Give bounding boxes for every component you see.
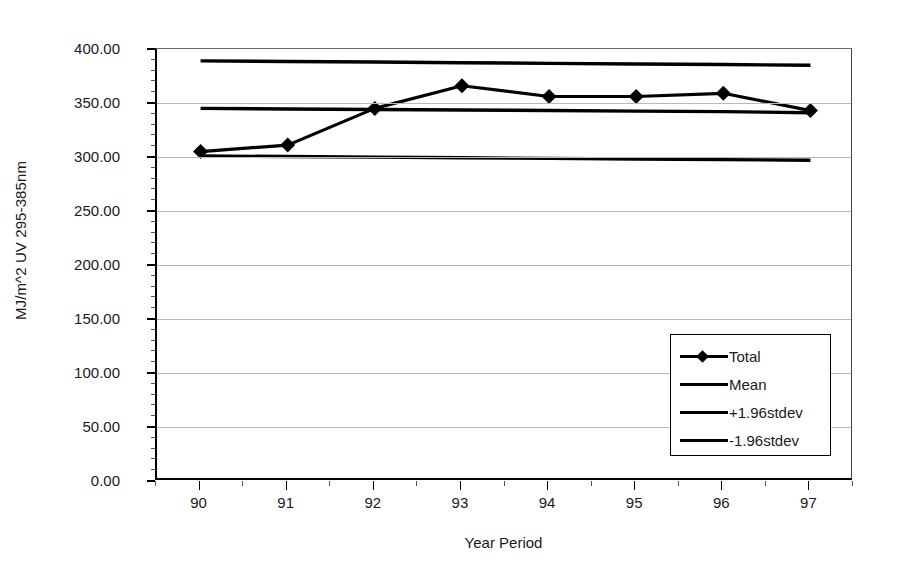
y-axis-tick-label: 250.00 (46, 202, 120, 219)
legend-item-plus-stdev: +1.96stdev (671, 398, 830, 426)
y-axis-minor-tick (151, 469, 155, 470)
gridline (157, 157, 851, 158)
gridline (157, 265, 851, 266)
y-axis-title: MJ/m^2 UV 295-385nm (0, 0, 40, 480)
x-axis-tick-label: 95 (614, 494, 654, 511)
data-point-marker (803, 103, 818, 118)
x-axis-tick-mark (199, 481, 200, 490)
x-axis-tick-label: 96 (701, 494, 741, 511)
legend-label-plus-stdev: +1.96stdev (729, 404, 803, 421)
x-axis-title-text: Year Period (465, 534, 543, 551)
x-axis-tick-label: 91 (266, 494, 306, 511)
y-axis-tick-mark (147, 318, 155, 320)
x-axis-minor-tick (155, 481, 156, 486)
y-axis-tick-mark (147, 156, 155, 158)
x-axis-minor-tick (329, 481, 330, 486)
legend-item-minus-stdev: -1.96stdev (671, 426, 830, 454)
x-axis-minor-tick (678, 481, 679, 486)
legend-swatch-minus-stdev-icon (680, 433, 728, 447)
y-axis-tick-mark (147, 372, 155, 374)
legend-label-total: Total (729, 348, 761, 365)
y-axis-tick-label: 50.00 (46, 418, 120, 435)
y-axis-minor-tick (151, 221, 155, 222)
gridline (157, 319, 851, 320)
y-axis-tick-mark (147, 480, 155, 482)
y-axis-minor-tick (151, 199, 155, 200)
data-point-marker (454, 78, 469, 93)
y-axis-minor-tick (151, 188, 155, 189)
gridline (157, 103, 851, 104)
legend-swatch-mean-icon (680, 377, 728, 391)
chart-container: MJ/m^2 UV 295-385nm 400.00350.00300.0025… (0, 0, 899, 579)
chart-legend: Total Mean +1.96stdev -1.96stdev (670, 334, 831, 456)
data-point-marker (542, 89, 557, 104)
y-axis-tick-mark (147, 102, 155, 104)
y-axis-minor-tick (151, 350, 155, 351)
legend-swatch-total-icon (680, 349, 728, 363)
y-axis-minor-tick (151, 286, 155, 287)
y-axis-minor-tick (151, 296, 155, 297)
y-axis-minor-tick (151, 394, 155, 395)
y-axis-minor-tick (151, 134, 155, 135)
y-axis-minor-tick (151, 415, 155, 416)
y-axis-minor-tick (151, 80, 155, 81)
y-axis-minor-tick (151, 340, 155, 341)
y-axis-tick-label: 350.00 (46, 94, 120, 111)
x-axis-tick-mark (721, 481, 722, 490)
y-axis-minor-tick (151, 361, 155, 362)
y-axis-tick-label: 0.00 (46, 472, 120, 489)
x-axis-tick-label: 90 (179, 494, 219, 511)
x-axis-tick-mark (808, 481, 809, 490)
data-point-marker (629, 89, 644, 104)
x-axis-tick-mark (373, 481, 374, 490)
x-axis-minor-tick (765, 481, 766, 486)
gridline (157, 211, 851, 212)
data-point-marker (716, 86, 731, 101)
y-axis-minor-tick (151, 458, 155, 459)
x-axis-minor-tick (416, 481, 417, 486)
x-axis-tick-label: 97 (788, 494, 828, 511)
y-axis-minor-tick (151, 124, 155, 125)
y-axis-tick-label: 300.00 (46, 148, 120, 165)
x-axis-title: Year Period (155, 534, 852, 551)
x-axis-tick-label: 94 (527, 494, 567, 511)
y-axis-tick-label: 200.00 (46, 256, 120, 273)
y-axis-minor-tick (151, 329, 155, 330)
y-axis-minor-tick (151, 383, 155, 384)
series-line-1-96stdev (201, 61, 811, 65)
x-axis-minor-tick (852, 481, 853, 486)
y-axis-minor-tick (151, 307, 155, 308)
y-axis-minor-tick (151, 113, 155, 114)
x-axis-tick-label: 93 (440, 494, 480, 511)
data-point-marker (280, 138, 295, 153)
y-axis-minor-tick (151, 448, 155, 449)
y-axis-minor-tick (151, 437, 155, 438)
legend-swatch-plus-stdev-icon (680, 405, 728, 419)
legend-label-mean: Mean (729, 376, 767, 393)
y-axis-minor-tick (151, 178, 155, 179)
legend-item-total: Total (671, 342, 830, 370)
y-axis-tick-label: 400.00 (46, 40, 120, 57)
x-axis-tick-mark (547, 481, 548, 490)
x-axis-minor-tick (504, 481, 505, 486)
y-axis-tick-mark (147, 426, 155, 428)
x-axis-minor-tick (591, 481, 592, 486)
y-axis-minor-tick (151, 59, 155, 60)
x-axis-tick-mark (634, 481, 635, 490)
x-axis-tick-label: 92 (353, 494, 393, 511)
x-axis-tick-mark (460, 481, 461, 490)
y-axis-minor-tick (151, 70, 155, 71)
legend-item-mean: Mean (671, 370, 830, 398)
y-axis-tick-mark (147, 210, 155, 212)
y-axis-minor-tick (151, 404, 155, 405)
y-axis-tick-label: 150.00 (46, 310, 120, 327)
y-axis-minor-tick (151, 232, 155, 233)
y-axis-minor-tick (151, 242, 155, 243)
y-axis-tick-labels: 400.00350.00300.00250.00200.00150.00100.… (38, 0, 120, 579)
legend-label-minus-stdev: -1.96stdev (729, 432, 799, 449)
y-axis-minor-tick (151, 167, 155, 168)
x-axis-tick-mark (286, 481, 287, 490)
series-line-mean (201, 108, 811, 112)
y-axis-tick-mark (147, 264, 155, 266)
y-axis-minor-tick (151, 91, 155, 92)
